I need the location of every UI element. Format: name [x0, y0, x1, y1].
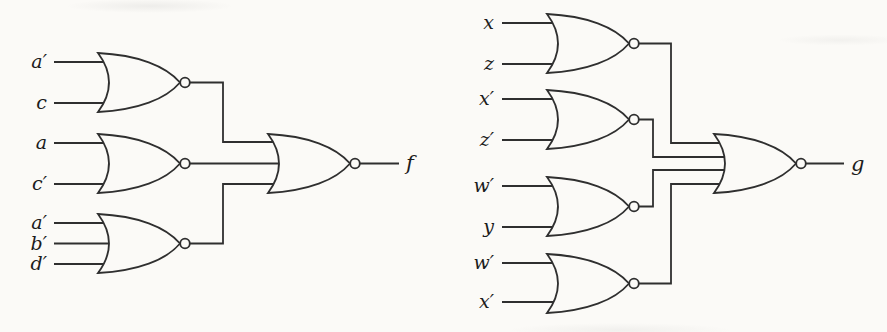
- wire-right-gate3-to-final: [634, 170, 730, 207]
- input-label-z: z: [483, 52, 495, 74]
- nor-gate-left-final: [268, 134, 360, 193]
- nor-gate-left-1: [98, 53, 190, 112]
- input-label-a-prime-1: a′: [31, 50, 47, 72]
- input-label-x-prime-1: x′: [479, 87, 495, 109]
- input-label-d-prime: d′: [31, 252, 48, 274]
- input-label-c: c: [36, 91, 47, 113]
- circuit-canvas: a′ c a c′ a′ b′ d′ f: [0, 0, 887, 332]
- input-label-c-prime: c′: [32, 172, 48, 194]
- output-label-g: g: [851, 152, 864, 176]
- nor-gate-right-3: [547, 177, 639, 236]
- input-label-a-prime-2: a′: [31, 211, 47, 233]
- nor-gate-right-final: [714, 134, 806, 193]
- right-circuit: x z x′ z′ w′ y w′ x′ g: [473, 11, 864, 313]
- input-label-w-prime-2: w′: [473, 251, 494, 273]
- nor-gate-left-3: [98, 214, 190, 273]
- wire-right-gate4-to-final: [634, 184, 730, 284]
- nor-gate-right-4: [547, 254, 639, 313]
- left-circuit: a′ c a c′ a′ b′ d′ f: [31, 50, 417, 274]
- wire-right-gate1-to-final: [634, 44, 730, 144]
- input-label-a: a: [36, 131, 47, 153]
- left-input-wires: [54, 62, 112, 264]
- input-label-z-prime: z′: [479, 128, 495, 150]
- nor-gate-right-2: [547, 90, 639, 149]
- logic-diagram-figure: a′ c a c′ a′ b′ d′ f: [0, 0, 887, 332]
- input-label-w-prime-1: w′: [473, 174, 494, 196]
- nor-gate-left-2: [98, 134, 190, 193]
- input-label-x-prime-2: x′: [479, 290, 495, 312]
- input-label-y: y: [482, 215, 494, 237]
- input-label-b-prime: b′: [31, 232, 48, 254]
- wire-left-gate1-to-final: [185, 83, 285, 143]
- nor-gate-right-1: [547, 14, 639, 73]
- wire-right-gate2-to-final: [634, 120, 730, 158]
- left-input-labels: a′ c a c′ a′ b′ d′: [31, 50, 48, 274]
- output-label-f: f: [404, 151, 417, 175]
- input-label-x: x: [483, 11, 494, 33]
- right-input-labels: x z x′ z′ w′ y w′ x′: [473, 11, 495, 312]
